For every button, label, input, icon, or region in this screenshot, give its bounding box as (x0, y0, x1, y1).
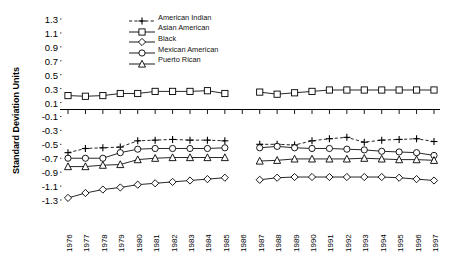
data-point-circle (274, 143, 280, 149)
y-axis-tick: 0.1 (45, 97, 58, 108)
data-point-circle (396, 149, 402, 155)
data-point-square (413, 87, 419, 93)
data-point-circle (413, 150, 419, 156)
data-point-plus (169, 136, 176, 143)
data-point-square (135, 90, 141, 96)
data-point-plus (152, 137, 159, 144)
data-point-diamond (169, 178, 176, 185)
x-axis-tick: 1982 (167, 206, 179, 252)
x-axis-tick: 1989 (289, 206, 301, 252)
data-point-diamond (152, 180, 159, 187)
data-point-plus (378, 137, 385, 144)
legend-label: Asian American (158, 23, 209, 32)
data-point-square (396, 87, 402, 93)
series-black (64, 173, 437, 201)
legend-item-black[interactable]: Black (128, 33, 258, 44)
data-point-diamond (326, 173, 333, 180)
data-point-square (187, 88, 193, 94)
legend-label: Black (158, 34, 176, 43)
y-axis-tick: 1.1 (45, 27, 58, 38)
data-point-diamond (413, 176, 420, 183)
data-point-diamond (361, 173, 368, 180)
data-point-diamond (186, 177, 193, 184)
data-point-plus (82, 145, 89, 152)
legend-marker-circle-icon (128, 44, 156, 54)
legend-item-mexican-american[interactable]: Mexican American (128, 44, 258, 55)
data-point-diamond (396, 174, 403, 181)
data-point-circle (117, 150, 123, 156)
legend-marker-square-icon (128, 23, 156, 33)
y-axis-tick: 1.3 (45, 14, 58, 25)
x-axis-tick: 1990 (306, 206, 318, 252)
data-point-circle (152, 145, 158, 151)
data-point-diamond (256, 176, 263, 183)
y-axis-tick: 0.9 (45, 41, 58, 52)
data-point-square (117, 90, 123, 96)
data-point-diamond (64, 194, 71, 201)
data-point-plus (343, 134, 350, 141)
legend-item-asian-american[interactable]: Asian American (128, 23, 258, 34)
data-point-square (152, 88, 158, 94)
data-point-square (222, 90, 228, 96)
data-point-diamond (117, 184, 124, 191)
y-axis-tick-labels: 1.31.10.90.70.50.30.1-0.1-0.3-0.5-0.7-0.… (20, 0, 58, 254)
series-puerto-rican (65, 154, 438, 170)
zero-axis-line (60, 110, 440, 115)
data-point-square (309, 88, 315, 94)
y-axis-tick: -0.5 (42, 139, 58, 150)
x-axis-tick: 1995 (393, 206, 405, 252)
data-point-square (169, 88, 175, 94)
data-point-circle (361, 147, 367, 153)
x-axis-tick: 1979 (114, 206, 126, 252)
data-point-diamond (134, 181, 141, 188)
x-axis-tick: 1988 (271, 206, 283, 252)
data-point-square (204, 88, 210, 94)
data-point-square (82, 93, 88, 99)
y-axis-tick: -1.3 (42, 195, 58, 206)
data-point-square (274, 91, 280, 97)
data-point-circle (187, 145, 193, 151)
x-axis-tick: 1981 (149, 206, 161, 252)
y-axis-tick: -0.3 (42, 125, 58, 136)
x-axis-tick: 1983 (184, 206, 196, 252)
data-point-circle (65, 155, 71, 161)
series-asian-american (65, 87, 437, 99)
data-point-diamond (343, 173, 350, 180)
x-axis-tick: 1992 (341, 206, 353, 252)
x-axis-tick: 1994 (376, 206, 388, 252)
data-point-plus (204, 137, 211, 144)
y-axis-tick: -0.1 (42, 111, 58, 122)
data-point-square (257, 89, 263, 95)
legend-marker-diamond-icon (128, 33, 156, 43)
x-axis-tick: 1980 (132, 206, 144, 252)
data-point-circle (326, 145, 332, 151)
data-point-plus (99, 144, 106, 151)
data-point-plus (309, 137, 316, 144)
y-axis-tick: -1.1 (42, 181, 58, 192)
x-axis-tick: 1993 (358, 206, 370, 252)
data-point-diamond (204, 176, 211, 183)
legend-label: Puerto Rican (158, 55, 201, 64)
legend-item-american-indian[interactable]: American Indian (128, 12, 258, 23)
x-axis-tick: 1977 (79, 206, 91, 252)
data-point-square (361, 87, 367, 93)
legend-item-puerto-rican[interactable]: Puerto Rican (128, 54, 258, 65)
x-axis-tick: 1997 (428, 206, 440, 252)
data-point-plus (221, 137, 228, 144)
data-point-circle (309, 145, 315, 151)
data-point-plus (134, 137, 141, 144)
data-point-circle (135, 146, 141, 152)
data-point-circle (204, 145, 210, 151)
y-axis-tick: -0.9 (42, 167, 58, 178)
x-axis-tick: 1978 (97, 206, 109, 252)
x-axis-tick: 1986 (236, 206, 248, 252)
legend-marker-plus-icon (128, 12, 156, 22)
x-axis-tick: 1984 (201, 206, 213, 252)
chart-legend: American IndianAsian AmericanBlackMexica… (128, 12, 258, 65)
legend-label: Mexican American (158, 45, 218, 54)
data-point-square (379, 87, 385, 93)
data-point-square (291, 90, 297, 96)
data-point-plus (396, 136, 403, 143)
x-axis-tick: 1987 (254, 206, 266, 252)
data-point-circle (291, 145, 297, 151)
